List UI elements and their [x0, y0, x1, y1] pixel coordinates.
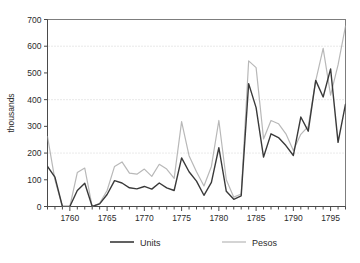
x-tick-label-1760: 1760	[60, 213, 79, 223]
y-tick-label-200: 200	[27, 148, 41, 158]
legend-item-units[interactable]: Units	[110, 238, 161, 248]
chart-figure: 0100200300400500600700thousands176017651…	[0, 0, 360, 263]
plot-area-border	[48, 20, 346, 207]
y-tick-label-100: 100	[27, 175, 41, 185]
legend-item-pesos[interactable]: Pesos	[222, 238, 278, 248]
x-tick-label-1785: 1785	[247, 213, 266, 223]
y-tick-label-300: 300	[27, 121, 41, 131]
y-tick-label-600: 600	[27, 41, 41, 51]
x-tick-label-1770: 1770	[135, 213, 154, 223]
x-tick-label-1765: 1765	[98, 213, 117, 223]
x-tick-label-1795: 1795	[321, 213, 340, 223]
y-tick-label-0: 0	[37, 202, 42, 212]
x-tick-label-1780: 1780	[209, 213, 228, 223]
y-axis-title: thousands	[6, 93, 16, 132]
x-tick-label-1775: 1775	[172, 213, 191, 223]
legend-label-units: Units	[140, 238, 161, 248]
line-chart: 0100200300400500600700thousands176017651…	[0, 0, 360, 263]
y-tick-label-400: 400	[27, 95, 41, 105]
y-tick-label-500: 500	[27, 68, 41, 78]
legend-label-pesos: Pesos	[252, 238, 278, 248]
x-tick-label-1790: 1790	[284, 213, 303, 223]
y-tick-label-700: 700	[27, 15, 41, 25]
